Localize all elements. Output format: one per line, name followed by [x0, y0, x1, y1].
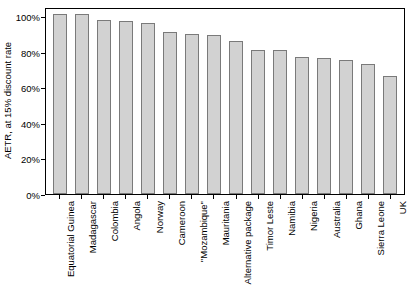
x-axis-label-slot: Madagascar	[70, 201, 92, 301]
x-axis-label-slot: Timor Leste	[247, 201, 269, 301]
x-axis-category-labels: Equatorial GuineaMadagascarColombiaAngol…	[45, 201, 405, 301]
bar-chart-figure: AETR, at 15% discount rate 100%80%60%40%…	[0, 0, 412, 303]
x-axis-label-slot: Nigeria	[291, 201, 313, 301]
x-axis-tick-slot	[291, 195, 313, 200]
y-axis-tick-label: 40%	[21, 118, 40, 129]
x-axis-label-slot: Namibia	[269, 201, 291, 301]
x-axis-tick-mark	[125, 195, 126, 199]
x-axis-tick-mark	[103, 195, 104, 199]
x-axis-tick-mark	[236, 195, 237, 199]
bar-slot	[115, 9, 137, 194]
bar-slot	[71, 9, 93, 194]
x-axis-tick-mark	[213, 195, 214, 199]
y-axis-tick-labels: 100%80%60%40%20%0%	[14, 0, 45, 200]
bar-slot	[137, 9, 159, 194]
bar[interactable]	[383, 76, 397, 194]
bar[interactable]	[229, 41, 243, 194]
bar[interactable]	[141, 23, 155, 194]
bar-series	[46, 9, 404, 194]
y-axis-tick-label: 0%	[26, 190, 40, 201]
x-axis-tick-mark	[368, 195, 369, 199]
x-axis-tick-slot	[225, 195, 247, 200]
bar[interactable]	[273, 50, 287, 194]
x-axis-tick-slot	[203, 195, 225, 200]
bar-slot	[247, 9, 269, 194]
bar[interactable]	[185, 34, 199, 194]
x-axis-tick-slot	[70, 195, 92, 200]
x-axis-tick-mark	[280, 195, 281, 199]
bar[interactable]	[339, 60, 353, 194]
x-axis-category-label: UK	[396, 201, 407, 214]
x-axis-tick-slot	[336, 195, 358, 200]
x-axis-tick-mark	[324, 195, 325, 199]
x-axis-tick-mark	[147, 195, 148, 199]
bar-slot	[269, 9, 291, 194]
x-axis-tick-slot	[358, 195, 380, 200]
x-axis-label-slot: UK	[380, 201, 402, 301]
x-axis-label-slot: Ghana	[336, 201, 358, 301]
x-axis-tick-slot	[247, 195, 269, 200]
x-axis-label-slot: Equatorial Guinea	[48, 201, 70, 301]
x-axis-tick-mark	[59, 195, 60, 199]
x-axis-label-slot: Angola	[114, 201, 136, 301]
x-axis-label-slot: Mauritania	[203, 201, 225, 301]
bar-slot	[93, 9, 115, 194]
x-axis-tick-slot	[137, 195, 159, 200]
x-axis-label-slot: Australia	[314, 201, 336, 301]
plot-area	[45, 8, 405, 195]
x-axis-tick-mark	[390, 195, 391, 199]
x-axis-tick-slot	[380, 195, 402, 200]
y-axis-tick-label: 60%	[21, 83, 40, 94]
bar[interactable]	[53, 14, 67, 194]
bar[interactable]	[207, 35, 221, 194]
bar-slot	[313, 9, 335, 194]
x-axis-tick-mark	[302, 195, 303, 199]
bar[interactable]	[163, 32, 177, 194]
y-axis-tick-label: 20%	[21, 154, 40, 165]
y-axis-tick-label: 100%	[16, 11, 40, 22]
bar-slot	[357, 9, 379, 194]
x-axis-label-slot: "Mozambique"	[181, 201, 203, 301]
x-axis-label-slot: Norway	[137, 201, 159, 301]
x-axis-tick-slot	[92, 195, 114, 200]
x-axis-label-slot: Sierra Leone	[358, 201, 380, 301]
bar-slot	[225, 9, 247, 194]
x-axis-label-slot: Cameroon	[159, 201, 181, 301]
bar[interactable]	[97, 20, 111, 194]
x-axis-tick-slot	[159, 195, 181, 200]
x-axis-tick-mark	[169, 195, 170, 199]
x-axis-tick-slot	[48, 195, 70, 200]
bar[interactable]	[317, 58, 331, 194]
x-axis-tick-mark	[346, 195, 347, 199]
bar[interactable]	[251, 50, 265, 194]
bar-slot	[291, 9, 313, 194]
x-axis-tick-mark	[191, 195, 192, 199]
x-axis-tick-mark	[81, 195, 82, 199]
bar-slot	[203, 9, 225, 194]
x-axis-tick-slot	[269, 195, 291, 200]
bar[interactable]	[295, 57, 309, 194]
y-axis-tick-label: 80%	[21, 47, 40, 58]
x-axis-tick-slot	[114, 195, 136, 200]
x-axis-label-slot: Alternative package	[225, 201, 247, 301]
bar-slot	[181, 9, 203, 194]
bar[interactable]	[119, 21, 133, 194]
bar-slot	[49, 9, 71, 194]
bar-slot	[379, 9, 401, 194]
bar-slot	[159, 9, 181, 194]
x-axis-tick-slot	[314, 195, 336, 200]
bar[interactable]	[75, 14, 89, 194]
bar-slot	[335, 9, 357, 194]
x-axis-tick-slot	[181, 195, 203, 200]
y-axis-title-text: AETR, at 15% discount rate	[3, 41, 14, 158]
bar[interactable]	[361, 64, 375, 194]
x-axis-tick-mark	[258, 195, 259, 199]
x-axis-label-slot: Colombia	[92, 201, 114, 301]
x-axis-tick-marks	[45, 195, 405, 200]
